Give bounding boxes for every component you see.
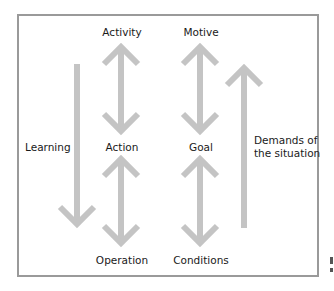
cropped-caption-fragment <box>330 257 333 264</box>
label-conditions: Conditions <box>173 254 229 267</box>
label-action: Action <box>106 141 139 154</box>
goal-conditions-double-arrow-icon <box>183 159 217 243</box>
motive-goal-double-arrow-icon <box>183 47 217 131</box>
label-operation: Operation <box>96 254 148 267</box>
activity-action-double-arrow-icon <box>104 47 138 131</box>
action-operation-double-arrow-icon <box>104 159 138 243</box>
label-demands-line2: the situation <box>254 147 320 160</box>
label-motive: Motive <box>183 26 218 39</box>
label-goal: Goal <box>189 141 213 154</box>
label-learning: Learning <box>25 141 71 154</box>
label-demands-line1: Demands of <box>254 134 317 147</box>
cropped-caption-fragment <box>330 268 333 272</box>
label-activity: Activity <box>102 26 141 39</box>
